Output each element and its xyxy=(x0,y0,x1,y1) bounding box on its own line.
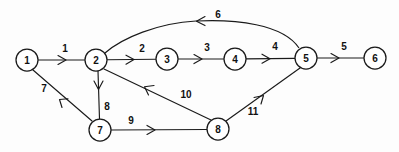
node-1[interactable]: 1 xyxy=(16,49,38,71)
edge-6[interactable]: 6 xyxy=(105,9,299,54)
node-7[interactable]: 7 xyxy=(89,119,111,141)
edge-11-line xyxy=(226,68,300,121)
edge-3-label: 3 xyxy=(204,42,210,53)
node-6-label: 6 xyxy=(372,53,378,64)
edge-9[interactable]: 9 xyxy=(111,115,207,135)
graph-diagram: 1 2 3 4 xyxy=(0,0,399,152)
edge-4-label: 4 xyxy=(272,41,278,52)
node-2[interactable]: 2 xyxy=(85,49,107,71)
edge-11-label: 11 xyxy=(248,106,259,117)
node-3-label: 3 xyxy=(164,54,170,65)
edge-10-label: 10 xyxy=(180,89,192,100)
edge-1[interactable]: 1 xyxy=(38,43,85,65)
edge-8[interactable]: 8 xyxy=(94,71,110,119)
edge-9-label: 9 xyxy=(128,115,134,126)
node-4[interactable]: 4 xyxy=(224,48,246,70)
edge-7-label: 7 xyxy=(41,83,47,94)
edge-8-label: 8 xyxy=(104,101,110,112)
edge-10-line xyxy=(104,69,211,120)
edge-3[interactable]: 3 xyxy=(178,42,224,64)
edge-10[interactable]: 10 xyxy=(104,69,211,120)
edge-6-arc xyxy=(105,21,299,53)
node-3[interactable]: 3 xyxy=(156,48,178,70)
node-8-label: 8 xyxy=(215,124,221,135)
edge-5[interactable]: 5 xyxy=(317,41,364,63)
edge-11[interactable]: 11 xyxy=(226,68,300,121)
node-4-label: 4 xyxy=(232,54,238,65)
edge-1-label: 1 xyxy=(62,43,68,54)
edge-5-label: 5 xyxy=(341,41,347,52)
node-7-label: 7 xyxy=(97,125,103,136)
edge-8-line xyxy=(98,71,100,119)
node-5-label: 5 xyxy=(303,53,309,64)
edge-7-arrowhead xyxy=(60,99,69,108)
edge-6-label: 6 xyxy=(215,9,221,20)
graph-canvas: 1 2 3 4 xyxy=(0,0,399,152)
edge-7[interactable]: 7 xyxy=(33,70,92,121)
node-2-label: 2 xyxy=(93,55,99,66)
edge-2-line xyxy=(107,59,156,60)
edge-9-line xyxy=(111,130,207,131)
edge-7-line xyxy=(33,70,92,121)
node-6[interactable]: 6 xyxy=(364,47,386,69)
node-8[interactable]: 8 xyxy=(207,118,229,140)
edge-2-label: 2 xyxy=(139,43,145,54)
node-5[interactable]: 5 xyxy=(295,47,317,69)
edge-layer: 1 2 3 4 xyxy=(33,9,364,135)
node-1-label: 1 xyxy=(24,55,30,66)
node-layer: 1 2 3 4 5 6 xyxy=(16,47,386,141)
edge-4[interactable]: 4 xyxy=(246,41,295,64)
